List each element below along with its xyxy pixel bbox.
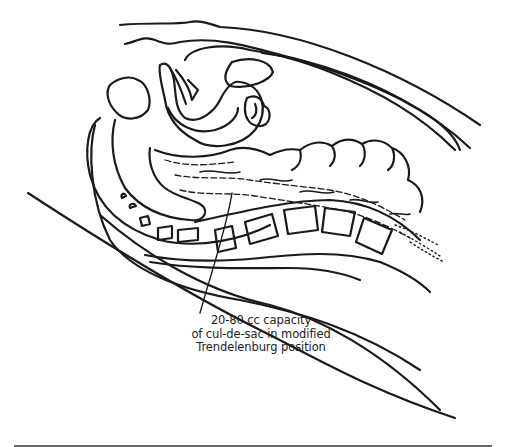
abdominal-wall-inner bbox=[125, 38, 470, 148]
ovary bbox=[245, 96, 270, 126]
vertebra bbox=[284, 206, 318, 234]
figure-caption: 20-80 cc capacity of cul-de-sac in modif… bbox=[176, 314, 346, 355]
caption-line-2: of cul-de-sac in modified bbox=[176, 328, 346, 342]
caption-line-3: Trendelenburg position bbox=[176, 341, 346, 355]
fluid-stipple bbox=[395, 225, 444, 262]
bottom-divider bbox=[14, 445, 492, 447]
coccyx bbox=[121, 194, 198, 242]
vertebra bbox=[356, 218, 392, 254]
vertebra bbox=[322, 208, 355, 236]
bladder bbox=[185, 46, 455, 150]
pubic-bone bbox=[108, 78, 150, 119]
rectum-outer bbox=[87, 118, 270, 244]
rectum-inner bbox=[112, 120, 205, 220]
caption-line-1: 20-80 cc capacity bbox=[176, 314, 346, 328]
table-line bbox=[28, 193, 455, 418]
sacrum-bottom bbox=[145, 254, 430, 292]
